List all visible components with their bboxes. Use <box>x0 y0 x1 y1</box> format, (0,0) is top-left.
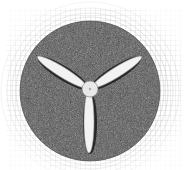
hub <box>82 81 98 97</box>
propeller-mesh-diagram <box>0 0 187 170</box>
blade-bottom <box>84 91 94 153</box>
